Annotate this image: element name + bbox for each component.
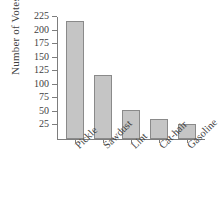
y-tick-label: 125 (34, 64, 49, 75)
y-tick-label: 200 (34, 24, 49, 35)
y-tick-mark (52, 111, 57, 112)
bar-chart: Number of Votes 255075100125150175200225… (0, 0, 220, 198)
y-tick-mark (52, 97, 57, 98)
y-tick-label: 225 (34, 10, 49, 21)
y-axis-line (57, 17, 58, 140)
y-tick-mark (52, 124, 57, 125)
y-tick-mark (52, 84, 57, 85)
y-tick-mark (52, 43, 57, 44)
y-tick-label: 150 (34, 51, 49, 62)
y-tick-mark (52, 70, 57, 71)
bar (66, 21, 84, 139)
y-tick-label: 50 (39, 105, 49, 116)
y-tick-mark (52, 16, 57, 17)
y-tick-mark (52, 57, 57, 58)
y-tick-mark (52, 30, 57, 31)
y-tick-label: 75 (39, 91, 49, 102)
y-tick-label: 175 (34, 37, 49, 48)
y-tick-label: 100 (34, 78, 49, 89)
y-tick-label: 25 (39, 118, 49, 129)
plot-area: 255075100125150175200225 PickleSawdustLi… (0, 0, 220, 198)
